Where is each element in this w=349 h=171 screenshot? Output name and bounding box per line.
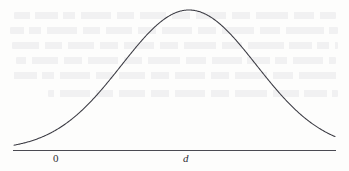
axis-tick-label-zero: 0 bbox=[53, 153, 59, 164]
axis-tick-label-d: d bbox=[183, 153, 189, 164]
bell-curve-path bbox=[14, 10, 335, 145]
bell-curve-figure: 0 d bbox=[0, 0, 349, 171]
plot-canvas bbox=[0, 0, 349, 171]
